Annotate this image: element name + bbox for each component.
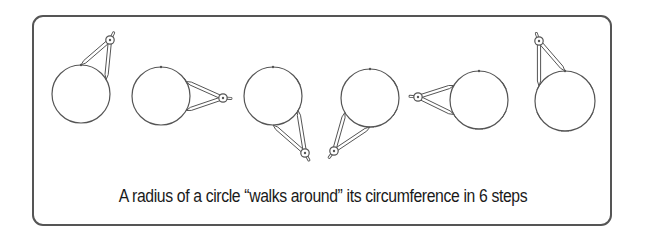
- circle: [450, 71, 508, 129]
- arc-tick-mark: [502, 82, 506, 89]
- start-point-dot: [369, 68, 371, 70]
- compass-icon: [186, 82, 231, 111]
- compass-icon: [81, 33, 114, 80]
- circle: [341, 69, 399, 127]
- start-point-dot: [160, 66, 162, 68]
- circle: [52, 65, 110, 123]
- circle: [244, 67, 302, 125]
- arc-tick-mark: [537, 113, 541, 120]
- step-2-group: [132, 66, 231, 125]
- diagram-caption: A radius of a circle “walks around” its …: [32, 186, 613, 207]
- step-4-group: [329, 68, 399, 158]
- circle: [535, 71, 595, 131]
- arc-tick-mark: [589, 83, 593, 90]
- arc-tick-mark: [296, 78, 300, 85]
- step-1-group: [52, 33, 114, 123]
- arc-tick-mark: [393, 109, 397, 116]
- compass-icon: [410, 86, 454, 115]
- compass-icon: [535, 33, 565, 86]
- start-point-dot: [272, 66, 274, 68]
- start-point-dot: [478, 70, 480, 72]
- step-6-group: [535, 33, 595, 131]
- step-5-group: [410, 70, 508, 129]
- arc-tick-mark: [589, 113, 593, 120]
- step-3-group: [244, 66, 309, 160]
- arc-tick-mark: [393, 80, 397, 87]
- circle: [132, 67, 190, 125]
- arc-tick-mark: [502, 111, 506, 118]
